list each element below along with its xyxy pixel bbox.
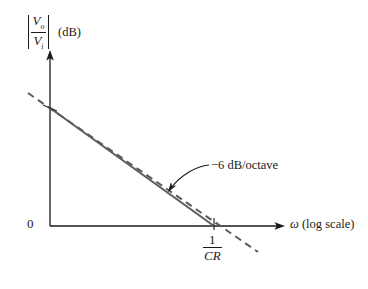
gain-numerator: Vo: [32, 14, 46, 32]
omega-symbol: ω: [290, 217, 299, 231]
gain-denominator: Vi: [32, 33, 44, 51]
bode-plot-figure: Vo Vi (dB) 0 ω (log scale) −6 dB/octave …: [0, 0, 368, 289]
cutoff-frequency-label: 1 CR: [203, 233, 222, 262]
annotation-arrow-curve: [172, 165, 209, 187]
gain-numerator-subscript: o: [40, 22, 44, 31]
slope-annotation-label: −6 dB/octave: [211, 159, 278, 172]
db-unit-label: (dB): [58, 26, 81, 39]
log-scale-note: (log scale): [302, 217, 354, 231]
gain-denominator-subscript: i: [41, 41, 43, 50]
x-axis: [50, 222, 285, 230]
gain-fraction: Vo Vi: [31, 14, 46, 50]
cutoff-numerator: 1: [208, 233, 217, 247]
abs-bar-right: [48, 15, 49, 49]
annotation-arrow: [168, 165, 209, 192]
y-axis-label: Vo Vi (dB): [26, 14, 81, 50]
x-axis-label: ω (log scale): [290, 218, 354, 231]
abs-bar-left: [28, 15, 29, 49]
asymptote-line: [50, 108, 214, 226]
y-axis: [46, 50, 54, 226]
annotation-arrowhead: [168, 182, 177, 192]
cutoff-fraction: 1 CR: [203, 233, 222, 262]
origin-zero-label: 0: [27, 217, 34, 230]
cutoff-denominator: CR: [203, 248, 222, 262]
